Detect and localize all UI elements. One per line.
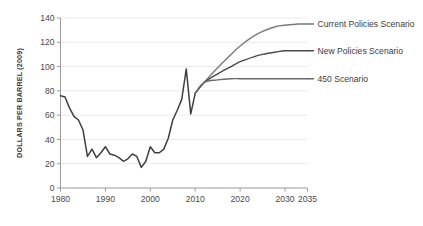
y-tick-label-120: 120 <box>40 37 55 47</box>
x-tick-label-1990: 1990 <box>96 194 115 204</box>
x-tick-label-2010: 2010 <box>186 194 205 204</box>
legend-label-450-scenario: 450 Scenario <box>318 74 369 84</box>
series-line-current-policies-scenario <box>195 24 307 93</box>
y-axis-title: DOLLARS PER BARREL (2009) <box>15 48 24 158</box>
legend-label-current-policies-scenario: Current Policies Scenario <box>318 19 415 29</box>
x-tick-label-1980: 1980 <box>51 194 70 204</box>
y-tick-label-100: 100 <box>40 62 55 72</box>
y-tick-label-40: 40 <box>45 135 55 145</box>
x-tick-label-2030: 2030 <box>275 194 294 204</box>
y-tick-label-80: 80 <box>45 86 55 96</box>
legend-label-new-policies-scenario: New Policies Scenario <box>318 46 404 56</box>
x-tick-label-2000: 2000 <box>141 194 160 204</box>
y-tick-label-20: 20 <box>45 159 55 169</box>
oil-price-chart: 0204060801001201401980199020002010202020… <box>0 0 423 226</box>
y-tick-label-140: 140 <box>40 13 55 23</box>
y-tick-label-60: 60 <box>45 110 55 120</box>
x-tick-label-2020: 2020 <box>231 194 250 204</box>
series-line-historical <box>61 69 196 167</box>
x-tick-label-2035: 2035 <box>298 194 317 204</box>
chart-canvas: 0204060801001201401980199020002010202020… <box>0 0 423 226</box>
series-line-new-policies-scenario <box>195 51 307 94</box>
y-tick-label-0: 0 <box>50 183 55 193</box>
